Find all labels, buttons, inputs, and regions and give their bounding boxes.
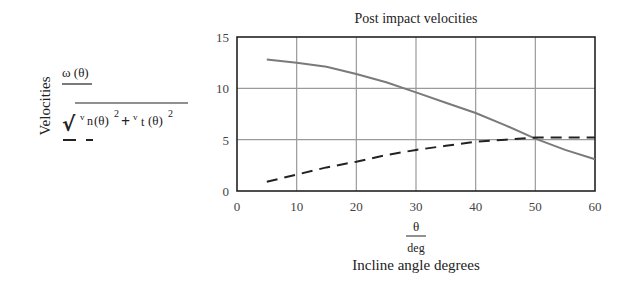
y-tick-labels: 051015	[216, 30, 229, 199]
series-line-omega	[267, 60, 595, 160]
expr-plus: +	[121, 113, 130, 130]
chart-title: Post impact velocities	[355, 11, 478, 26]
y-axis-label: Velocities	[37, 76, 53, 135]
grid-lines	[237, 37, 595, 191]
expr-square-1: 2	[114, 108, 119, 119]
expr-v-2: v	[133, 112, 138, 122]
sqrt-sign: √	[62, 112, 76, 136]
series-line-velocity-magnitude	[267, 138, 595, 182]
x-tick-label: 30	[410, 199, 423, 214]
x-axis-label: Incline angle degrees	[352, 257, 480, 273]
expr-v: v	[80, 112, 85, 122]
expr-theta-1: (θ)	[94, 113, 109, 128]
y-tick-label: 0	[223, 184, 230, 199]
expr-theta-2: (θ)	[148, 113, 163, 128]
y-tick-label: 15	[216, 30, 229, 45]
y-tick-label: 5	[223, 133, 230, 148]
x-tick-label: 0	[234, 199, 241, 214]
expr-sub-t: t	[141, 115, 145, 129]
expr-square-2: 2	[168, 108, 173, 119]
x-tick-label: 50	[529, 199, 542, 214]
x-tick-labels: 0102030405060	[234, 199, 602, 214]
x-tick-label: 60	[589, 199, 602, 214]
legend-expr-omega: ω (θ)	[62, 65, 89, 80]
x-tick-label: 40	[469, 199, 482, 214]
x-expr-numerator: θ	[413, 219, 419, 234]
y-tick-label: 10	[216, 81, 229, 96]
expr-sub-n: n	[87, 114, 93, 128]
x-tick-label: 10	[290, 199, 303, 214]
x-expr-denominator: deg	[407, 241, 424, 255]
x-tick-label: 20	[350, 199, 363, 214]
chart-canvas: Post impact velocities 051015 0102030405…	[0, 0, 628, 288]
